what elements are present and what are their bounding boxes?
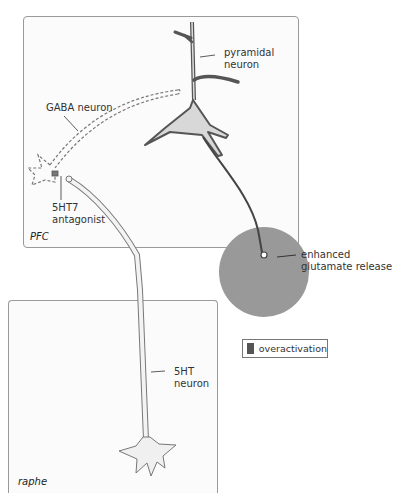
antagonist-label: 5HT7 antagonist [52,202,105,226]
serotonin-leader-line [151,371,165,372]
legend: overactivation [242,339,328,358]
neuron-diagram [0,0,401,493]
legend-label-overactivation: overactivation [259,343,327,354]
gaba-leader-line [64,116,78,131]
legend-swatch-overactivation [247,343,254,354]
glutamate-release-label: enhanced glutamate release [301,249,392,273]
pyramidal-neuron-label: pyramidal neuron [224,47,274,71]
overactivation-circle [219,227,309,317]
pyramidal-leader-line [200,55,215,57]
antagonist-marker [52,171,58,176]
gaba-neuron-label: GABA neuron [46,102,113,114]
serotonin-neuron-label: 5HT neuron [174,366,209,390]
